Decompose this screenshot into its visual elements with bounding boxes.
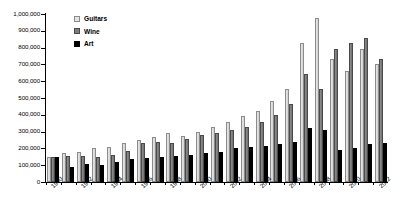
x-axis-tick	[254, 182, 255, 185]
bar-art[interactable]	[368, 144, 372, 182]
y-axis-tick-label: 900,000	[2, 27, 40, 33]
bar-group	[210, 14, 225, 182]
bar-art[interactable]	[249, 147, 253, 182]
bar-group	[165, 14, 180, 182]
y-axis-tick-label: 300,000	[2, 128, 40, 134]
y-axis-tick-label: 1,000,000	[2, 11, 40, 17]
bar-art[interactable]	[338, 150, 342, 182]
bar-group	[284, 14, 299, 182]
bar-art[interactable]	[70, 167, 74, 182]
bar-group	[358, 14, 373, 182]
bar-art[interactable]	[100, 165, 104, 182]
y-axis-tick-label: 400,000	[2, 111, 40, 117]
bar-group	[180, 14, 195, 182]
x-axis-tick	[76, 182, 77, 185]
bar-group	[314, 14, 329, 182]
y-axis-tick-label: 0	[2, 179, 40, 185]
bar-group	[343, 14, 358, 182]
x-axis-tick	[105, 182, 106, 185]
bar-art[interactable]	[189, 155, 193, 182]
bar-art[interactable]	[278, 144, 282, 182]
x-axis-tick	[165, 182, 166, 185]
x-axis-tick	[224, 182, 225, 185]
bar-group	[373, 14, 388, 182]
bar-art[interactable]	[130, 159, 134, 182]
x-axis-line	[45, 182, 388, 183]
bar-art[interactable]	[219, 152, 223, 182]
bar-chart: 1,000,000900,000800,000700,000600,000500…	[0, 0, 402, 212]
bar-group	[76, 14, 91, 182]
x-axis-tick	[343, 182, 344, 185]
x-axis-tick	[135, 182, 136, 185]
y-axis-tick-label: 500,000	[2, 95, 40, 101]
y-axis-tick-label: 600,000	[2, 78, 40, 84]
x-axis-tick	[284, 182, 285, 185]
bar-group	[105, 14, 120, 182]
bar-group	[120, 14, 135, 182]
bar-group	[150, 14, 165, 182]
x-axis-tick	[195, 182, 196, 185]
y-axis-tick-label: 800,000	[2, 44, 40, 50]
bar-group	[269, 14, 284, 182]
bar-group	[299, 14, 314, 182]
bar-group	[224, 14, 239, 182]
bar-group	[329, 14, 344, 182]
bar-art[interactable]	[308, 128, 312, 182]
y-axis-tick-label: 700,000	[2, 61, 40, 67]
x-axis-tick	[46, 182, 47, 185]
y-axis-tick-label: 200,000	[2, 145, 40, 151]
bar-group	[91, 14, 106, 182]
x-axis-tick	[314, 182, 315, 185]
bar-group	[61, 14, 76, 182]
bar-group	[135, 14, 150, 182]
bar-group	[195, 14, 210, 182]
bar-group	[254, 14, 269, 182]
bar-group	[46, 14, 61, 182]
y-axis-tick-label: 100,000	[2, 162, 40, 168]
bar-group	[239, 14, 254, 182]
x-axis-tick	[373, 182, 374, 185]
bar-art[interactable]	[160, 157, 164, 182]
